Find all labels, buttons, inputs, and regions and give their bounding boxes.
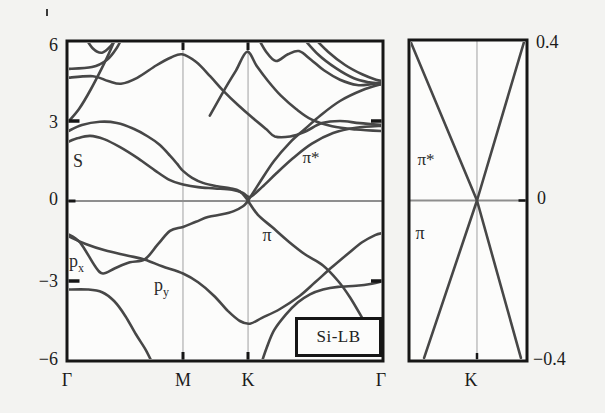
- zoom-band-label-pi-star: π*: [417, 151, 434, 168]
- band-label-px-sub: x: [78, 261, 84, 275]
- zoom-ytick-label-minus04: −0.4: [533, 350, 566, 368]
- band-label-pi-star: π*: [302, 149, 319, 166]
- band-label-px: px: [69, 252, 84, 270]
- band-label-pi: π: [262, 226, 271, 244]
- kpoint-label-gamma-left: Γ: [62, 371, 72, 389]
- inset-label: Si-LB: [316, 327, 360, 347]
- band-label-px-base: p: [69, 251, 78, 271]
- kpoint-label-m: M: [175, 371, 191, 389]
- ytick-label-6: 6: [49, 36, 58, 54]
- inset-label-box: Si-LB: [295, 317, 382, 357]
- kpoint-label-gamma-right: Γ: [376, 371, 386, 389]
- zoom-ytick-label-04: 0.4: [536, 33, 559, 51]
- ytick-label-minus6: −6: [39, 350, 58, 368]
- band-label-s: S: [73, 152, 83, 170]
- ytick-label-3: 3: [49, 113, 58, 131]
- band-label-py-sub: y: [163, 285, 169, 299]
- ytick-label-minus3: −3: [39, 272, 58, 290]
- scan-artifact-mark: [46, 9, 48, 16]
- kpoint-label-k: K: [242, 371, 255, 389]
- band-label-py-base: p: [154, 275, 163, 295]
- zoom-kpoint-label-k: K: [465, 371, 478, 389]
- ytick-label-0: 0: [49, 190, 58, 208]
- zoom-ytick-label-0: 0: [537, 189, 546, 207]
- band-label-py: py: [154, 276, 169, 294]
- band-structure-figure: 6 3 0 −3 −6 Γ M K Γ S px py π π* Si-LB 0…: [0, 0, 605, 413]
- zoom-band-label-pi: π: [415, 224, 424, 242]
